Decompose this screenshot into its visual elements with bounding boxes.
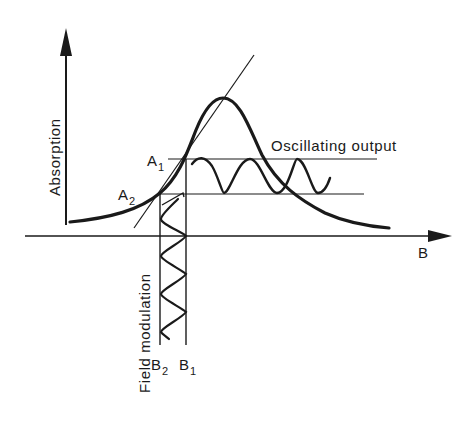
svg-text:1: 1 [158, 161, 164, 173]
x-axis-label: B [418, 244, 429, 261]
level-label-a1: A 1 [147, 152, 164, 173]
svg-text:A: A [118, 186, 129, 203]
tangent-line [134, 55, 254, 228]
svg-text:2: 2 [129, 195, 135, 207]
oscillating-output-wave [192, 158, 330, 193]
level-label-a2: A 2 [118, 186, 135, 207]
field-modulation-label: Field modulation [136, 273, 153, 393]
y-axis-label: Absorption [46, 118, 63, 196]
svg-text:2: 2 [162, 365, 168, 377]
svg-text:A: A [147, 152, 158, 169]
oscillating-output-label: Oscillating output [271, 137, 397, 154]
svg-text:B: B [151, 356, 162, 373]
field-modulation-wave [161, 199, 186, 339]
svg-text:B: B [179, 356, 190, 373]
x-axis [25, 230, 452, 242]
field-label-b2: B 2 [151, 356, 168, 377]
absorption-curve [70, 98, 389, 228]
field-label-b1: B 1 [179, 356, 196, 377]
y-axis-arrow-icon [60, 28, 72, 56]
field-modulation-diagram: Absorption B Oscillating output Field mo… [0, 0, 475, 423]
x-axis-arrow-icon [428, 230, 452, 242]
svg-text:1: 1 [190, 365, 196, 377]
